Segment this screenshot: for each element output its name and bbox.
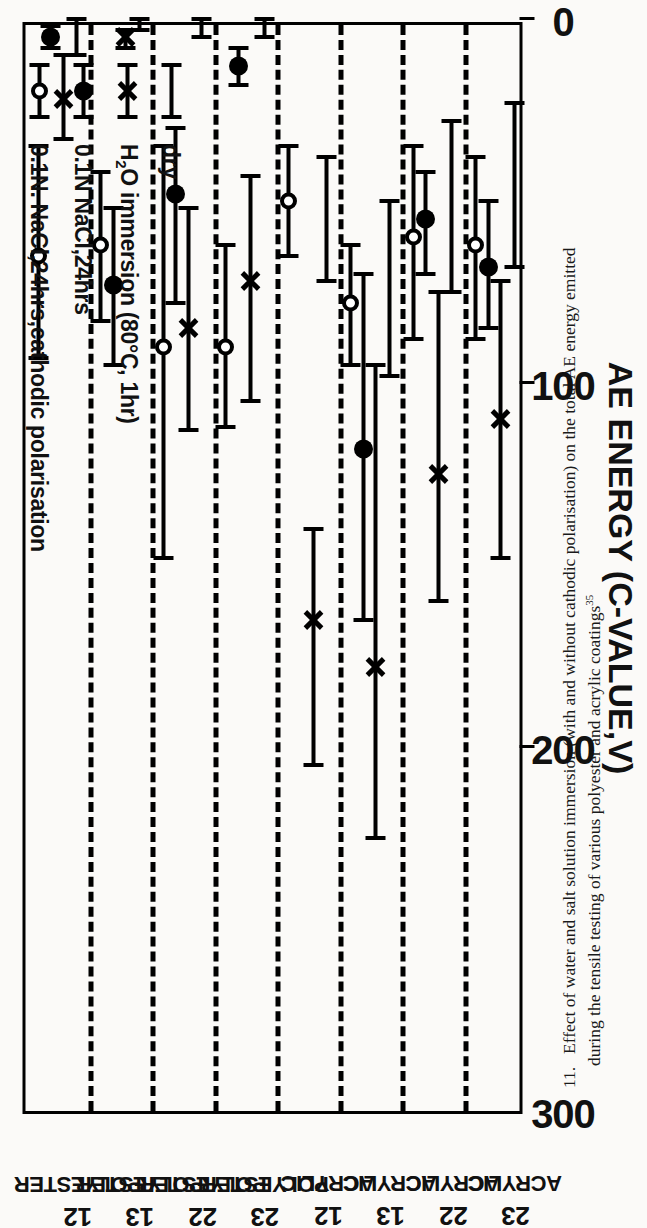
error-bar-cap	[215, 243, 235, 247]
error-bar-cap	[278, 254, 298, 258]
error-bar	[373, 365, 377, 838]
error-bar-cap	[340, 243, 360, 247]
error-bar-cap	[465, 337, 485, 341]
marker-filled-circle	[416, 210, 435, 229]
error-bar-cap	[191, 35, 211, 39]
error-bar-cap	[303, 527, 323, 531]
error-bar	[387, 201, 391, 376]
marker-filled-circle	[41, 28, 60, 47]
error-bar-cap	[353, 272, 373, 276]
error-bar-cap	[153, 556, 173, 560]
legend-error-bar-cap	[161, 115, 181, 119]
error-bar-cap	[365, 363, 385, 367]
marker-cross	[52, 88, 74, 110]
marker-filled-circle	[228, 57, 247, 76]
error-bar-cap	[365, 836, 385, 840]
error-bar	[324, 157, 328, 281]
error-bar-cap	[490, 556, 510, 560]
legend-marker-open-circle	[31, 83, 48, 100]
marker-open-circle	[342, 294, 359, 311]
marker-cross	[364, 656, 386, 678]
legend-error-bar-cap	[73, 115, 93, 119]
group-separator	[338, 25, 343, 1111]
legend-marker-filled-circle	[74, 82, 93, 101]
error-bar-cap	[240, 174, 260, 178]
legend-error-bar-cap	[161, 63, 181, 67]
error-bar-cap	[40, 46, 60, 50]
error-bar-cap	[403, 337, 423, 341]
error-bar-cap	[441, 119, 461, 123]
error-bar	[311, 529, 315, 766]
error-bar-cap	[428, 599, 448, 603]
error-bar-cap	[53, 137, 73, 141]
marker-cross	[239, 270, 261, 292]
error-bar	[223, 245, 227, 427]
error-bar-cap	[303, 763, 323, 767]
error-bar-cap	[379, 199, 399, 203]
legend-error-bar-cap	[73, 63, 93, 67]
marker-filled-circle	[166, 184, 185, 203]
error-bar-cap	[129, 17, 149, 21]
error-bar-cap	[478, 326, 498, 330]
error-bar-cap	[278, 144, 298, 148]
axis-tick-label: 0	[523, 0, 603, 45]
marker-cross	[302, 609, 324, 631]
error-bar-cap	[240, 399, 260, 403]
error-bar-cap	[353, 618, 373, 622]
error-bar-cap	[254, 17, 274, 21]
error-bar-cap	[490, 279, 510, 283]
error-bar-cap	[66, 17, 86, 21]
legend-error-bar	[169, 65, 173, 117]
plot-area	[25, 25, 519, 1111]
error-bar-cap	[129, 28, 149, 32]
axis-tick-label: 100	[523, 364, 603, 409]
axis-title: AE ENERGY (C-VALUE,V)	[600, 362, 639, 774]
figure-caption: 11. Effect of water and salt solution im…	[556, 48, 607, 1088]
error-bar	[512, 103, 516, 267]
caption-number: 11.	[556, 1067, 581, 1088]
legend-error-bar-cap	[29, 63, 49, 67]
error-bar-cap	[178, 206, 198, 210]
marker-open-circle	[467, 236, 484, 253]
marker-open-circle	[404, 229, 421, 246]
error-bar-cap	[254, 35, 274, 39]
marker-cross	[489, 408, 511, 430]
marker-open-circle	[154, 338, 171, 355]
category-material: ACRYLIC	[467, 1170, 561, 1196]
error-bar-cap	[415, 272, 435, 276]
marker-cross	[177, 317, 199, 339]
error-bar-cap	[178, 428, 198, 432]
error-bar-cap	[66, 53, 86, 57]
caption-reference: 35	[583, 595, 595, 606]
error-bar	[449, 121, 453, 292]
group-separator	[275, 25, 280, 1111]
axis-tick-label: 200	[523, 728, 603, 773]
error-bar-cap	[165, 126, 185, 130]
error-bar	[74, 19, 78, 55]
marker-filled-circle	[353, 439, 372, 458]
error-bar-cap	[228, 46, 248, 50]
marker-cross	[427, 463, 449, 485]
error-bar-cap	[478, 199, 498, 203]
error-bar-cap	[504, 265, 524, 269]
error-bar-cap	[228, 83, 248, 87]
group-separator	[463, 25, 468, 1111]
axis-tick-label: 300	[523, 1092, 603, 1137]
error-bar-cap	[379, 374, 399, 378]
error-bar-cap	[403, 144, 423, 148]
legend-error-bar-cap	[29, 115, 49, 119]
error-bar-cap	[215, 425, 235, 429]
marker-open-circle	[217, 338, 234, 355]
legend-error-bar-cap	[117, 115, 137, 119]
error-bar	[436, 292, 440, 601]
legend-error-bar-cap	[117, 63, 137, 67]
plot-frame	[22, 22, 522, 1114]
error-bar-cap	[165, 301, 185, 305]
legend-marker-cross	[116, 80, 138, 102]
group-separator	[400, 25, 405, 1111]
group-separator	[213, 25, 218, 1111]
category-code: 23	[500, 1200, 529, 1228]
category-label-group: ACRYLIC23	[460, 1170, 570, 1228]
group-separator	[150, 25, 155, 1111]
error-bar-cap	[340, 363, 360, 367]
